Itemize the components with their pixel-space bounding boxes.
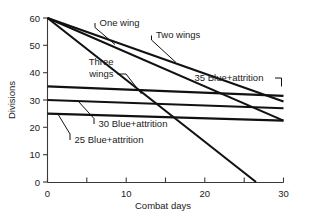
chart-figure: 60 50 40 30 20 10 0 0 10 20 30 Combat da… — [0, 0, 309, 218]
line-chart-svg: 60 50 40 30 20 10 0 0 10 20 30 Combat da… — [0, 0, 309, 218]
y-axis-title: Divisions — [6, 81, 17, 119]
annotation-three-wings-line1: Three — [89, 56, 114, 67]
leader-blue-35 — [275, 78, 282, 87]
x-axis — [48, 178, 284, 183]
y-tick-label-50: 50 — [29, 40, 40, 51]
leader-blue-30 — [79, 102, 95, 125]
annotation-blue-35: 35 Blue+attrition — [195, 72, 264, 83]
y-tick-label-20: 20 — [29, 122, 40, 133]
annotation-blue-25: 25 Blue+attrition — [75, 134, 144, 145]
annotation-blue-30: 30 Blue+attrition — [99, 118, 168, 129]
x-tick-label-0: 0 — [45, 188, 50, 199]
y-tick-label-60: 60 — [29, 13, 40, 24]
y-tick-label-10: 10 — [29, 149, 40, 160]
annotation-three-wings-line2: wings — [88, 68, 114, 79]
y-axis — [43, 18, 48, 183]
x-tick-label-30: 30 — [278, 188, 289, 199]
leader-blue-25 — [59, 115, 71, 140]
y-tick-label-40: 40 — [29, 67, 40, 78]
series-line-three-wings — [48, 18, 257, 182]
x-tick-label-10: 10 — [121, 188, 132, 199]
y-tick-label-30: 30 — [29, 95, 40, 106]
y-tick-label-0: 0 — [35, 177, 40, 188]
x-tick-label-20: 20 — [200, 188, 211, 199]
annotation-two-wings: Two wings — [156, 29, 201, 40]
annotation-one-wing: One wing — [100, 17, 140, 28]
x-axis-title: Combat days — [135, 200, 191, 211]
